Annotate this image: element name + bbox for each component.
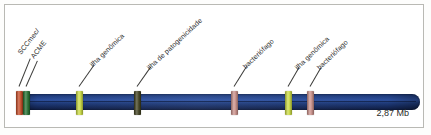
genome-size-caption: 2,87 Mb: [376, 108, 409, 118]
genome-feature-marker: [134, 91, 141, 115]
genome-feature-marker: [23, 91, 30, 115]
marker-shading: [231, 91, 238, 115]
marker-shading: [134, 91, 141, 115]
genome-feature-marker: [231, 91, 238, 115]
feature-leader-line: [79, 65, 95, 87]
genome-map-figure: SCCmec/ACMEilha genômicailha de patogeni…: [0, 0, 431, 135]
marker-shading: [285, 91, 292, 115]
genome-feature-marker: [16, 91, 23, 115]
feature-label: ilha de patogenicidade: [146, 17, 204, 71]
marker-shading: [16, 91, 23, 115]
genome-feature-marker: [76, 91, 83, 115]
genome-feature-marker: [285, 91, 292, 115]
figure-frame: SCCmec/ACMEilha genômicailha de patogeni…: [4, 4, 424, 128]
marker-shading: [307, 91, 314, 115]
feature-leader-line: [19, 58, 31, 86]
marker-shading: [23, 91, 30, 115]
marker-shading: [76, 91, 83, 115]
feature-label: bacteriófago: [242, 37, 275, 70]
genome-feature-marker: [307, 91, 314, 115]
feature-label: ilha genômica: [89, 32, 126, 68]
